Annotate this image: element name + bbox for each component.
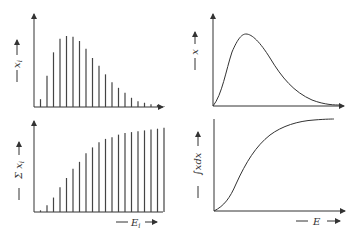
panel-continuous-distribution: x xyxy=(189,14,344,106)
svg-text:x: x xyxy=(189,49,200,55)
bar-series xyxy=(41,36,165,107)
x-axis-label: Ei xyxy=(116,217,157,230)
y-axis-label: xi xyxy=(11,40,24,82)
x-axis-label: E xyxy=(296,216,340,227)
panel-discrete-distribution: xi xyxy=(11,14,164,107)
figure: xi Σ xi Ei x xyxy=(0,0,352,237)
svg-text:Σ xi: Σ xi xyxy=(13,161,26,180)
svg-text:∫xdx: ∫xdx xyxy=(192,152,203,175)
y-axis-label: x xyxy=(189,32,200,70)
panel-cumulative-continuous: ∫xdx E xyxy=(192,119,345,227)
y-axis-label: ∫xdx xyxy=(192,132,203,198)
bar-series xyxy=(41,128,165,212)
svg-text:xi: xi xyxy=(11,60,24,68)
distribution-curve xyxy=(213,34,340,106)
svg-text:Ei: Ei xyxy=(130,217,141,230)
y-axis-label: Σ xi xyxy=(13,142,26,200)
cumulative-curve xyxy=(214,119,334,211)
panel-cumulative-discrete: Σ xi Ei xyxy=(13,121,164,230)
svg-text:E: E xyxy=(312,216,321,227)
